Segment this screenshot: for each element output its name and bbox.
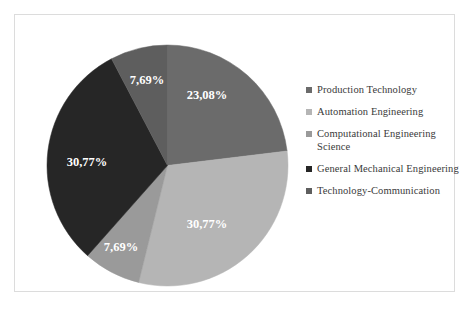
pie-slice-label-1: 23,08% — [187, 88, 228, 102]
pie-svg: 23,08%30,77%7,69%30,77%7,69% — [35, 33, 300, 298]
pie-slice-label-5: 7,69% — [130, 73, 164, 87]
legend-item-5[interactable]: Technology-Communication — [306, 184, 470, 197]
figure-border-frame: 23,08%30,77%7,69%30,77%7,69% Production … — [14, 14, 455, 292]
legend-swatch-icon-3 — [306, 131, 312, 137]
legend-item-label: Computational Engineering Science — [317, 127, 470, 153]
legend-item-label: Production Technology — [317, 83, 417, 96]
legend-swatch-icon-1 — [306, 87, 312, 93]
pie-slice-label-2: 30,77% — [187, 217, 228, 231]
pie-slice-label-3: 7,69% — [104, 240, 138, 254]
legend-item-2[interactable]: Automation Engineering — [306, 105, 470, 118]
legend-swatch-icon-5 — [306, 188, 312, 194]
pie-plot-area: 23,08%30,77%7,69%30,77%7,69% — [35, 33, 300, 298]
pie-chart-figure: 23,08%30,77%7,69%30,77%7,69% Production … — [0, 0, 470, 309]
legend-swatch-icon-4 — [306, 166, 312, 172]
legend-item-1[interactable]: Production Technology — [306, 83, 470, 96]
legend-item-label: Automation Engineering — [317, 105, 423, 118]
legend-item-label: General Mechanical Engineering — [317, 162, 459, 175]
pie-slice-1[interactable] — [168, 45, 288, 166]
legend-item-4[interactable]: General Mechanical Engineering — [306, 162, 470, 175]
chart-legend: Production TechnologyAutomation Engineer… — [306, 83, 470, 206]
pie-slice-label-4: 30,77% — [67, 155, 108, 169]
legend-item-3[interactable]: Computational Engineering Science — [306, 127, 470, 153]
legend-swatch-icon-2 — [306, 109, 312, 115]
legend-item-label: Technology-Communication — [317, 184, 440, 197]
